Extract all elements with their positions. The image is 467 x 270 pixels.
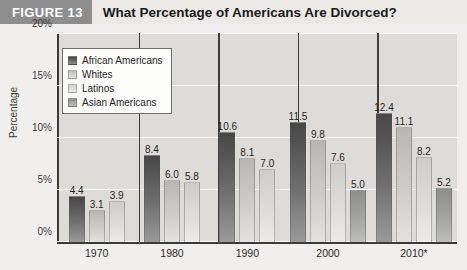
bar-latinos-1980[interactable]: 5.8 bbox=[184, 182, 200, 242]
bar-value-label: 12.4 bbox=[374, 102, 393, 113]
y-tick-label-10: 10% bbox=[32, 122, 52, 133]
bar-value-label: 10.6 bbox=[218, 121, 237, 132]
figure-title: What Percentage of Americans Are Divorce… bbox=[103, 5, 397, 20]
bar-value-label: 3.9 bbox=[110, 190, 124, 201]
legend-item-asian-americans[interactable]: Asian Americans bbox=[68, 95, 163, 109]
legend-item-whites[interactable]: Whites bbox=[68, 67, 163, 81]
bar-value-label: 11.1 bbox=[395, 116, 414, 127]
bar-value-label: 8.4 bbox=[145, 144, 159, 155]
bar-african-americans-1970[interactable]: 4.4 bbox=[69, 196, 85, 242]
bar-latinos-1990[interactable]: 7.0 bbox=[259, 169, 275, 242]
y-tick-label-0: 0% bbox=[38, 226, 52, 237]
x-tick-label-1980: 1980 bbox=[160, 247, 183, 259]
figure-container: FIGURE 13 What Percentage of Americans A… bbox=[0, 0, 467, 270]
bar-african-americans-2000[interactable]: 11.5 bbox=[290, 122, 306, 242]
legend-item-african-americans[interactable]: African Americans bbox=[68, 53, 163, 67]
bar-group-2000: 11.5 9.8 7.6 5.0 2000 bbox=[285, 33, 371, 242]
bar-african-americans-1980[interactable]: 8.4 bbox=[144, 155, 160, 242]
bar-asian-americans-2010[interactable]: 5.2 bbox=[436, 188, 452, 242]
x-tick-label-2000: 2000 bbox=[316, 247, 339, 259]
legend-item-latinos[interactable]: Latinos bbox=[68, 81, 163, 95]
bar-value-label: 6.0 bbox=[165, 169, 179, 180]
legend-swatch-icon bbox=[68, 70, 77, 79]
bar-latinos-1970[interactable]: 3.9 bbox=[109, 201, 125, 242]
x-tick-label-1970: 1970 bbox=[85, 247, 108, 259]
bar-value-label: 11.5 bbox=[289, 111, 308, 122]
y-tick-label-20: 20% bbox=[32, 18, 52, 29]
bar-group-1990: 10.6 8.1 7.0 1990 bbox=[210, 33, 285, 242]
figure-header: FIGURE 13 What Percentage of Americans A… bbox=[0, 0, 467, 24]
bar-whites-1990[interactable]: 8.1 bbox=[239, 158, 255, 242]
legend-swatch-icon bbox=[68, 56, 77, 65]
chart-legend: African Americans Whites Latinos Asian A… bbox=[62, 48, 172, 114]
legend-item-label: African Americans bbox=[82, 55, 163, 66]
x-tick-label-2010: 2010* bbox=[400, 247, 427, 259]
bar-value-label: 9.8 bbox=[311, 129, 325, 140]
y-axis-title: Percentage bbox=[8, 87, 19, 138]
legend-swatch-icon bbox=[68, 84, 77, 93]
bar-value-label: 7.6 bbox=[331, 152, 345, 163]
bar-whites-1980[interactable]: 6.0 bbox=[164, 180, 180, 242]
bar-african-americans-1990[interactable]: 10.6 bbox=[219, 132, 235, 242]
bar-asian-americans-2000[interactable]: 5.0 bbox=[350, 190, 366, 242]
bar-latinos-2010[interactable]: 8.2 bbox=[416, 157, 432, 242]
legend-item-label: Whites bbox=[82, 69, 113, 80]
legend-item-label: Asian Americans bbox=[82, 97, 156, 108]
bar-african-americans-2010[interactable]: 12.4 bbox=[376, 113, 392, 242]
bar-whites-2000[interactable]: 9.8 bbox=[310, 140, 326, 242]
bar-group-2010: 12.4 11.1 8.2 5.2 2010* bbox=[371, 33, 457, 242]
y-tick-label-15: 15% bbox=[32, 70, 52, 81]
bar-whites-2010[interactable]: 11.1 bbox=[396, 127, 412, 242]
bar-value-label: 5.8 bbox=[185, 171, 199, 182]
bar-value-label: 3.1 bbox=[90, 199, 104, 210]
y-tick-label-5: 5% bbox=[38, 174, 52, 185]
bar-latinos-2000[interactable]: 7.6 bbox=[330, 163, 346, 242]
bar-value-label: 5.0 bbox=[351, 179, 365, 190]
bar-value-label: 8.2 bbox=[417, 146, 431, 157]
bar-value-label: 8.1 bbox=[240, 147, 254, 158]
bar-value-label: 7.0 bbox=[260, 158, 274, 169]
bar-value-label: 4.4 bbox=[70, 185, 84, 196]
x-tick-label-1990: 1990 bbox=[236, 247, 259, 259]
bar-value-label: 5.2 bbox=[437, 177, 451, 188]
legend-swatch-icon bbox=[68, 98, 77, 107]
bar-whites-1970[interactable]: 3.1 bbox=[89, 210, 105, 242]
legend-item-label: Latinos bbox=[82, 83, 114, 94]
